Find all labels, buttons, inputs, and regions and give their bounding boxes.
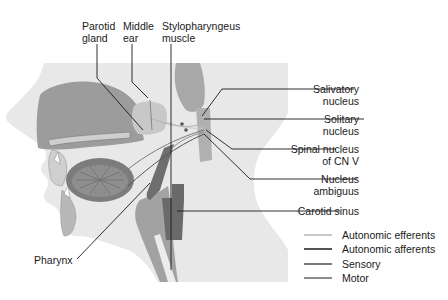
legend-item-autonomic-afferents: Autonomic afferents — [304, 242, 435, 256]
legend-swatch — [304, 277, 332, 279]
label-nucleus-ambiguus: Nucleus ambiguus — [313, 173, 359, 197]
legend-swatch — [304, 263, 332, 265]
legend-swatch — [304, 234, 332, 236]
parotid-gland — [132, 102, 167, 135]
label-middle-ear: Middle ear — [123, 20, 154, 44]
label-salivatory-nucleus: Salivatory nucleus — [313, 83, 359, 107]
label-pharynx: Pharynx — [34, 254, 73, 266]
label-stylopharyngeus-muscle: Stylopharyngeus muscle — [162, 20, 240, 44]
legend-item-motor: Motor — [304, 271, 369, 285]
label-spinal-nucleus-cnv: Spinal nucleus of CN V — [291, 143, 359, 167]
legend-swatch — [304, 248, 332, 250]
tongue-muscle — [72, 165, 128, 197]
legend-item-autonomic-efferents: Autonomic efferents — [304, 228, 435, 242]
legend-item-sensory: Sensory — [304, 257, 381, 271]
label-parotid-gland: Parotid gland — [82, 20, 115, 44]
label-carotid-sinus: Carotid sinus — [298, 205, 359, 217]
label-solitary-nucleus: Solitary nucleus — [323, 113, 359, 137]
